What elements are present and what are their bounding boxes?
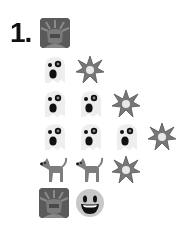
- ghost-icon: [75, 122, 105, 152]
- statue-of-liberty-icon: [39, 188, 69, 218]
- collision-icon: [147, 122, 177, 152]
- dog-icon: [75, 155, 105, 185]
- statue-of-liberty-icon: [40, 18, 70, 48]
- ghost-icon: [39, 122, 69, 152]
- collision-icon: [75, 55, 105, 85]
- dog-icon: [39, 155, 69, 185]
- ghost-icon: [75, 89, 105, 119]
- collision-icon: [111, 155, 141, 185]
- collision-icon: [111, 89, 141, 119]
- grinning-face-icon: [75, 188, 105, 218]
- ghost-icon: [39, 89, 69, 119]
- ghost-icon: [111, 122, 141, 152]
- puzzle-number: 1.: [10, 18, 31, 48]
- ghost-icon: [39, 55, 69, 85]
